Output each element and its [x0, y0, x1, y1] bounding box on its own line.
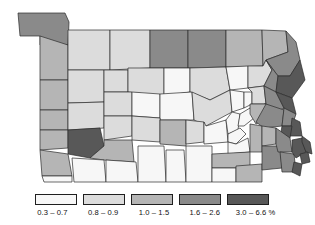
legend-swatch-1 — [35, 194, 77, 205]
county-fayette[interactable] — [72, 158, 106, 182]
county-lebanon[interactable] — [262, 126, 276, 146]
county-bedford[interactable] — [138, 146, 166, 182]
county-jefferson[interactable] — [132, 92, 160, 118]
county-blair[interactable] — [186, 120, 204, 144]
county-cameron[interactable] — [164, 68, 190, 96]
county-butler[interactable] — [68, 102, 104, 130]
county-franklin[interactable] — [186, 146, 212, 182]
legend-swatch-3 — [131, 194, 173, 205]
county-sullivan[interactable] — [226, 66, 248, 90]
county-fulton[interactable] — [166, 150, 186, 182]
county-clearfield[interactable] — [160, 92, 194, 120]
county-bradford[interactable] — [226, 30, 263, 67]
county-venango[interactable] — [68, 70, 104, 103]
county-york[interactable] — [236, 164, 262, 182]
legend-swatch-5 — [227, 194, 269, 205]
county-adams[interactable] — [212, 168, 236, 182]
legend-label-1: 0.3 – 0.7 — [30, 207, 75, 221]
legend-swatch-4 — [179, 194, 221, 205]
legend: 0.3 – 0.7 0.8 – 0.9 1.0 – 1.5 1.6 – 2.6 … — [0, 190, 315, 225]
county-washington[interactable] — [40, 150, 72, 176]
county-potter[interactable] — [150, 30, 188, 68]
legend-swatch-row — [35, 194, 269, 205]
county-delaware[interactable] — [292, 162, 302, 176]
legend-label-5: 3.0 – 6.6 % — [233, 207, 278, 221]
legend-swatch-2 — [83, 194, 125, 205]
legend-label-2: 0.8 – 0.9 — [81, 207, 126, 221]
county-indiana[interactable] — [132, 116, 160, 142]
county-beaver[interactable] — [40, 130, 68, 150]
county-clarion[interactable] — [104, 92, 132, 116]
legend-label-3: 1.0 – 1.5 — [132, 207, 177, 221]
county-mercer[interactable] — [40, 80, 68, 110]
county-greene[interactable] — [42, 176, 72, 182]
choropleth-figure: 0.3 – 0.7 0.8 – 0.9 1.0 – 1.5 1.6 – 2.6 … — [0, 0, 315, 225]
legend-label-4: 1.6 – 2.6 — [182, 207, 227, 221]
county-dauphin[interactable] — [250, 124, 262, 152]
county-warren[interactable] — [68, 30, 110, 70]
county-somerset[interactable] — [106, 160, 138, 182]
map-area — [0, 0, 315, 188]
pennsylvania-county-map[interactable] — [0, 0, 315, 188]
county-forest[interactable] — [104, 70, 128, 92]
county-armstrong[interactable] — [104, 116, 132, 140]
legend-label-row: 0.3 – 0.7 0.8 – 0.9 1.0 – 1.5 1.6 – 2.6 … — [30, 207, 278, 221]
county-lawrence[interactable] — [40, 110, 68, 130]
county-tioga[interactable] — [188, 30, 226, 68]
county-union[interactable] — [230, 90, 244, 112]
county-cambria[interactable] — [160, 120, 186, 146]
county-philadelphia[interactable] — [300, 152, 310, 164]
county-mckean[interactable] — [110, 30, 150, 70]
